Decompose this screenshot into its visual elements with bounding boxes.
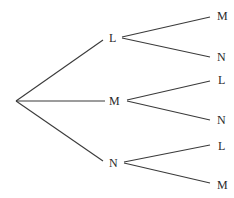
- leaf-M-L: L: [218, 73, 225, 87]
- tree-diagram: L M N M N L N L M: [0, 0, 234, 198]
- leaf-L-N: N: [217, 50, 226, 64]
- edge-M-N: [127, 101, 210, 120]
- edge-L-M: [122, 17, 210, 37]
- leaf-L-M: M: [217, 9, 228, 23]
- node-N: N: [109, 156, 118, 170]
- node-L: L: [109, 31, 116, 45]
- edge-root-L: [16, 40, 103, 101]
- edge-N-M: [124, 163, 210, 183]
- edge-root-N: [16, 101, 103, 161]
- leaf-N-L: L: [218, 139, 225, 153]
- edge-M-L: [127, 81, 210, 100]
- node-M: M: [109, 94, 120, 108]
- edge-L-N: [122, 38, 210, 57]
- leaf-M-N: N: [217, 113, 226, 127]
- leaf-N-M: M: [217, 178, 228, 192]
- edge-N-L: [124, 145, 210, 162]
